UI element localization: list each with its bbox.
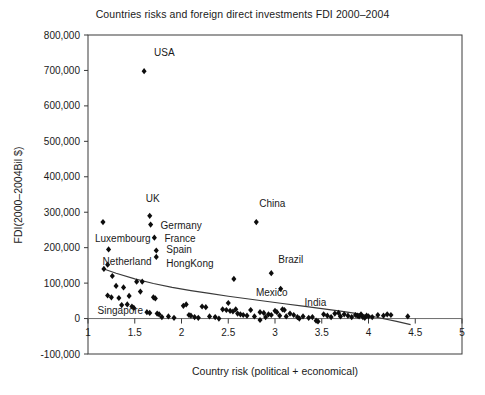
data-point: [200, 303, 205, 309]
data-point: [203, 304, 208, 310]
y-axis-title: FDI(2000–2004Bil $): [12, 147, 24, 244]
data-point: [226, 300, 231, 306]
x-axis-title: Country risk (political + economical): [192, 365, 358, 377]
data-point: [138, 289, 143, 295]
data-point: [224, 307, 229, 313]
y-tick-label: 700,000: [44, 65, 81, 76]
data-point: [244, 313, 249, 319]
scatter-plot: -100,0000100,000200,000300,000400,000500…: [0, 0, 485, 395]
y-tick-label: 100,000: [44, 278, 81, 289]
data-point: [140, 279, 145, 285]
data-point: [345, 313, 350, 319]
x-tick-label: 2.5: [221, 327, 235, 338]
data-point: [114, 283, 119, 289]
y-tick-label: 600,000: [44, 100, 81, 111]
point-label: UK: [146, 193, 160, 204]
point-label: Mexico: [256, 287, 288, 298]
data-point: [152, 235, 157, 241]
x-tick-label: 3: [272, 327, 278, 338]
data-point: [148, 222, 153, 228]
y-tick-label: 0: [74, 313, 80, 324]
x-tick-label: 4.5: [408, 327, 422, 338]
point-label: HongKong: [166, 258, 213, 269]
y-tick-label: 300,000: [44, 207, 81, 218]
data-point: [121, 284, 126, 290]
data-point: [321, 311, 326, 317]
data-point: [142, 68, 147, 74]
x-tick-label: 1.5: [128, 327, 142, 338]
point-label: China: [259, 198, 286, 209]
x-tick-label: 4: [366, 327, 372, 338]
point-label: Singapore: [98, 305, 144, 316]
data-point: [231, 276, 236, 282]
data-point: [100, 219, 105, 225]
data-point: [306, 315, 311, 321]
y-tick-label: 200,000: [44, 242, 81, 253]
data-point: [385, 311, 390, 317]
data-point: [329, 314, 334, 320]
point-label: USA: [154, 47, 175, 58]
data-point: [213, 314, 218, 320]
data-point: [269, 270, 274, 276]
y-tick-label: 800,000: [44, 30, 81, 41]
data-point: [106, 246, 111, 252]
point-label: France: [164, 233, 196, 244]
point-label: Brazil: [278, 254, 303, 265]
y-tick-label: -100,000: [41, 349, 81, 360]
data-point: [388, 312, 393, 318]
data-point: [370, 314, 375, 320]
x-tick-label: 5: [459, 327, 465, 338]
data-point: [254, 219, 259, 225]
data-point: [172, 315, 177, 321]
data-point: [154, 254, 159, 260]
data-point: [310, 314, 315, 320]
data-point: [110, 273, 115, 279]
point-label: Germany: [161, 220, 202, 231]
point-label: Netherland: [103, 256, 152, 267]
point-label: India: [305, 297, 327, 308]
data-point: [248, 307, 253, 313]
y-tick-label: 400,000: [44, 171, 81, 182]
chart-figure: Countries risks and foreign direct inves…: [0, 0, 485, 395]
data-point: [127, 293, 132, 299]
data-point: [258, 317, 263, 323]
point-labels: USAUKGermanyFranceSpainHongKongLuxembour…: [95, 47, 327, 315]
point-label: Luxembourg: [95, 233, 151, 244]
x-tick-label: 3.5: [315, 327, 329, 338]
point-label: Spain: [166, 244, 192, 255]
data-point: [116, 295, 121, 301]
data-point: [196, 315, 201, 321]
y-tick-label: 500,000: [44, 136, 81, 147]
data-point: [154, 247, 159, 253]
data-point: [325, 313, 330, 319]
x-tick-label: 2: [179, 327, 185, 338]
data-point: [147, 213, 152, 219]
x-tick-label: 1: [85, 327, 91, 338]
